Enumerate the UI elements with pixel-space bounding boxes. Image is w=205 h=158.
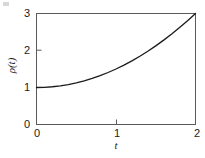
x-tick-label-1: 1 [107,128,127,139]
x-axis-label: t [106,140,126,151]
data-curve-rho [37,14,196,88]
x-tick-label-0: 0 [27,128,47,139]
y-tick-label-3: 3 [8,8,30,19]
figure-container: 3 2 1 0 0 1 2 ρ(t) t [0,0,205,158]
x-tick-label-2: 2 [187,128,205,139]
y-axis-label: ρ(t) [6,46,17,86]
